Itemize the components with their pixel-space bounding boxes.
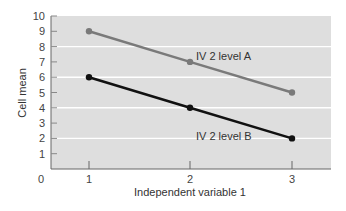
y-tick-label: 3 <box>39 117 45 129</box>
data-point <box>289 89 295 95</box>
y-tick-label: 6 <box>39 71 45 83</box>
y-tick-label: 2 <box>39 132 45 144</box>
data-point <box>86 74 92 80</box>
y-tick-label: 1 <box>39 148 45 160</box>
x-tick-label: 1 <box>86 173 92 185</box>
y-tick-label: 9 <box>39 25 45 37</box>
y-axis-title: Cell mean <box>16 68 28 118</box>
data-point <box>86 28 92 34</box>
data-point <box>187 59 193 65</box>
series-label-a: IV 2 level A <box>196 50 252 62</box>
series-label-b: IV 2 level B <box>196 130 252 142</box>
y-tick-label: 8 <box>39 41 45 53</box>
x-tick-label: 3 <box>289 173 295 185</box>
data-point <box>289 135 295 141</box>
y-tick-label: 4 <box>39 102 45 114</box>
y-tick-label: 5 <box>39 87 45 99</box>
data-point <box>187 105 193 111</box>
y-tick-label: 0 <box>38 173 44 185</box>
x-tick-label: 2 <box>187 173 193 185</box>
x-axis-title: Independent variable 1 <box>134 186 246 198</box>
line-chart: 012345678910 123 Cell mean Independent v… <box>0 0 346 211</box>
y-tick-label: 10 <box>33 10 45 22</box>
y-tick-label: 7 <box>39 56 45 68</box>
